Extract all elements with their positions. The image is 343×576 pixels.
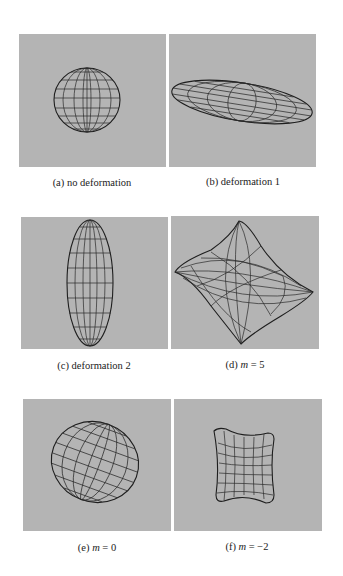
panel-f-m-minus-2 [174,399,322,531]
panel-c-deformation-2 [21,217,168,349]
panel-e-m-0 [23,399,171,531]
caption-d: (d) m = 5 [170,359,320,370]
wireframe-spool-image [174,399,322,531]
wireframe-flat-ellipsoid-image [169,34,316,167]
panel-d-m-5 [171,216,319,349]
caption-e: (e) m = 0 [22,542,172,553]
wireframe-diamond-image [171,216,319,349]
panel-b-deformation-1 [169,34,316,167]
caption-f: (f) m = −2 [172,541,322,552]
panel-a-no-deformation [19,34,166,167]
wireframe-tall-ellipsoid-image [21,217,168,349]
wireframe-sphere-image [19,34,166,167]
caption-b: (b) deformation 1 [168,176,318,187]
wireframe-tilted-ellipsoid-image [23,399,171,531]
caption-a: (a) no deformation [17,177,167,188]
caption-c: (c) deformation 2 [19,360,169,371]
